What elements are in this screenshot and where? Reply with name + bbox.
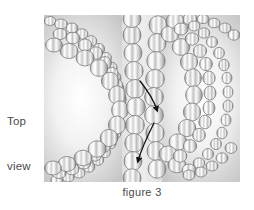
figure-root: Top view [0,0,254,210]
top-view-label-line-1: Top [7,114,43,129]
top-view-label-line-2: view [7,159,43,174]
illustration-panel [44,15,240,182]
top-view-label: Top view [7,84,43,204]
figure-caption: figure 3 [44,186,240,198]
constriction-diagram [44,15,240,182]
